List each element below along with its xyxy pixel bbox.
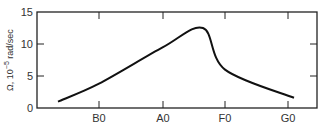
y-tick-label: 15 xyxy=(21,6,33,18)
y-tick-label: 5 xyxy=(27,70,33,82)
y-tick-label: 10 xyxy=(21,38,33,50)
x-tick-label: B0 xyxy=(92,112,105,124)
y-tick-label: 0 xyxy=(27,102,33,114)
omega-curve xyxy=(58,27,294,101)
x-tick-label: A0 xyxy=(156,112,169,124)
x-tick-label: G0 xyxy=(281,112,296,124)
x-tick-label: F0 xyxy=(219,112,232,124)
y-axis-title: Ω, 10−5 rad/sec xyxy=(3,29,15,91)
chart: 051015B0A0F0G0Ω, 10−5 rad/sec xyxy=(0,0,325,124)
